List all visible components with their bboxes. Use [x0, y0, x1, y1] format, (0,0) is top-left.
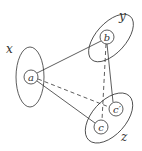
edge-a-b — [37, 41, 101, 73]
diagram-canvas: a b c′ c x y z — [0, 0, 142, 151]
group-z-label: z — [120, 130, 128, 144]
node-b-label: b — [104, 32, 110, 43]
edge-a-c — [37, 81, 95, 123]
group-x-label: x — [6, 42, 13, 56]
node-a-label: a — [28, 72, 34, 83]
edge-a-c-prime-dashed — [38, 79, 109, 107]
group-z-ellipse — [76, 84, 141, 151]
node-c-prime-label: c′ — [113, 104, 122, 115]
edge-b-c-prime — [107, 44, 113, 102]
group-y-label: y — [118, 9, 126, 23]
node-c-label: c — [98, 122, 104, 133]
edge-b-c-dashed — [102, 44, 106, 120]
